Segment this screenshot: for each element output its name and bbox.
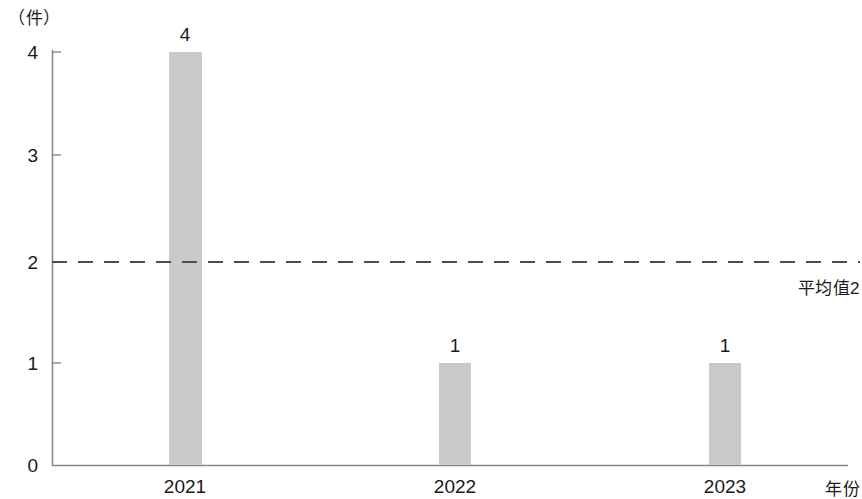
x-axis-title: 年份	[825, 475, 860, 499]
bar-value-label-2021: 4	[155, 25, 215, 44]
bar-2023	[709, 363, 741, 465]
bar-2022	[439, 363, 471, 465]
x-tick-label-2023: 2023	[680, 477, 770, 496]
bar-value-label-2022: 1	[425, 336, 485, 355]
average-line-label: 平均值2	[798, 274, 860, 299]
bar-value-label-2023: 1	[695, 336, 755, 355]
bar-2021	[169, 52, 202, 465]
x-tick-label-2022: 2022	[410, 477, 500, 496]
x-tick-label-2021: 2021	[140, 477, 230, 496]
plot-area	[0, 0, 862, 499]
bar-chart: （件） 4 3 2 1 0 4 1 1 2021 2022 2023 平均值2 …	[0, 0, 862, 499]
